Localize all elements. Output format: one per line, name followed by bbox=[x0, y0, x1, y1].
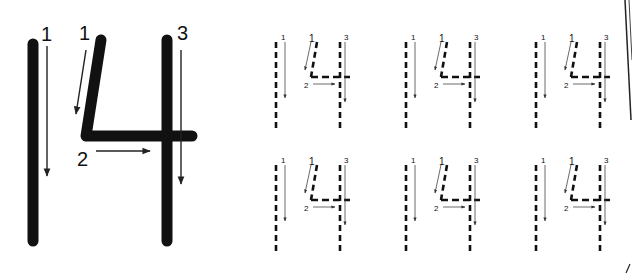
svg-text:2: 2 bbox=[434, 204, 439, 213]
practice-cell[interactable]: 1 1 2 3 bbox=[406, 156, 480, 253]
stroke-number-label: 2 bbox=[77, 148, 88, 170]
svg-text:2: 2 bbox=[304, 204, 309, 213]
stroke-arrow-icon bbox=[76, 50, 86, 114]
svg-text:1: 1 bbox=[411, 156, 416, 165]
svg-text:2: 2 bbox=[564, 81, 569, 90]
practice-cell[interactable]: 1 1 2 3 bbox=[536, 156, 610, 253]
svg-text:3: 3 bbox=[474, 33, 479, 42]
example-digit-four: 1 2 3 bbox=[76, 22, 192, 241]
svg-text:3: 3 bbox=[344, 156, 349, 165]
digit-four-stroke bbox=[86, 40, 192, 136]
svg-text:3: 3 bbox=[474, 156, 479, 165]
svg-text:3: 3 bbox=[344, 33, 349, 42]
svg-text:2: 2 bbox=[434, 81, 439, 90]
svg-text:1: 1 bbox=[569, 156, 575, 167]
worksheet-canvas: 1 1 2 3 1 1 2 3 1 1 2 3 1 1 2 3 1 1 2 3 bbox=[0, 0, 632, 273]
svg-text:1: 1 bbox=[569, 33, 575, 44]
page-edge bbox=[625, 0, 632, 273]
svg-text:1: 1 bbox=[281, 33, 286, 42]
practice-cell[interactable]: 1 1 2 3 bbox=[536, 33, 610, 130]
svg-text:1: 1 bbox=[439, 156, 445, 167]
stroke-number-label: 3 bbox=[177, 22, 188, 44]
svg-text:1: 1 bbox=[411, 33, 416, 42]
svg-text:1: 1 bbox=[439, 33, 445, 44]
svg-text:1: 1 bbox=[309, 33, 315, 44]
svg-text:1: 1 bbox=[541, 156, 546, 165]
stroke-number-label: 1 bbox=[79, 22, 90, 44]
practice-cell[interactable]: 1 1 2 3 bbox=[276, 33, 350, 130]
practice-cell[interactable]: 1 1 2 3 bbox=[406, 33, 480, 130]
svg-text:1: 1 bbox=[309, 156, 315, 167]
svg-text:3: 3 bbox=[604, 156, 609, 165]
svg-text:2: 2 bbox=[564, 204, 569, 213]
example-digit-one: 1 bbox=[33, 23, 52, 241]
svg-text:1: 1 bbox=[541, 33, 546, 42]
practice-cell[interactable]: 1 1 2 3 bbox=[276, 156, 350, 253]
svg-text:2: 2 bbox=[304, 81, 309, 90]
stroke-number-label: 1 bbox=[41, 23, 52, 45]
svg-text:1: 1 bbox=[281, 156, 286, 165]
svg-text:3: 3 bbox=[604, 33, 609, 42]
